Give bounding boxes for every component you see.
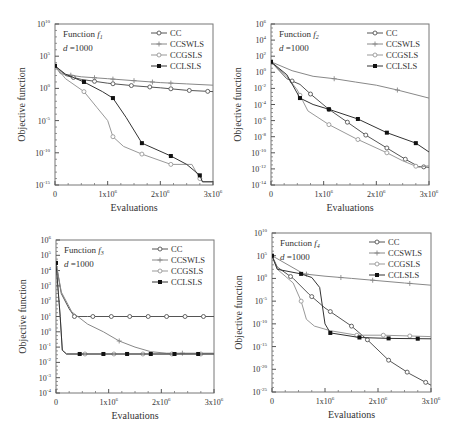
x-tick-label: 0 bbox=[54, 398, 58, 407]
y-tick-label: 10-14 bbox=[251, 180, 266, 190]
chart-panel-f4: 10-2510-2010-1510-1010-5100105101001x106… bbox=[233, 228, 441, 420]
legend-label: CCGSLS bbox=[388, 259, 420, 269]
x-tick-label: 0 bbox=[270, 397, 274, 406]
legend-item-ccswls: CCSWLS bbox=[152, 255, 205, 265]
x-tick-label: 3x106 bbox=[205, 397, 224, 407]
x-tick-label: 2x106 bbox=[367, 189, 386, 199]
legend-item-cclsls: CCLSLS bbox=[152, 277, 202, 287]
x-tick-label: 2x106 bbox=[151, 189, 170, 199]
legend-label: CC bbox=[171, 244, 183, 254]
y-tick-label: 10-4 bbox=[39, 388, 52, 398]
x-tick-label: 0 bbox=[269, 190, 273, 199]
x-axis: 01x1062x1063x106 bbox=[54, 389, 224, 407]
x-tick-label: 1x106 bbox=[316, 396, 335, 406]
y-tick-label: 10-10 bbox=[252, 319, 267, 329]
y-tick-label: 106 bbox=[41, 235, 52, 245]
legend: CCCCSWLSCCGSLSCCLSLS bbox=[369, 237, 422, 280]
panel-title: Function f3 bbox=[64, 245, 104, 256]
y-tick-label: 1010 bbox=[37, 19, 51, 29]
y-tick-label: 105 bbox=[40, 51, 51, 61]
figure-canvas: 10-1510-1010-5100105101001x1062x1063x106… bbox=[0, 0, 458, 436]
dimension-label: d =1000 bbox=[279, 43, 309, 53]
x-tick-label: 2x106 bbox=[369, 396, 388, 406]
legend-label: CCLSLS bbox=[386, 61, 417, 71]
legend-item-ccswls: CCSWLS bbox=[367, 39, 420, 49]
y-tick-label: 1010 bbox=[254, 228, 268, 238]
y-tick-label: 10-8 bbox=[254, 132, 267, 142]
legend-label: CCSWLS bbox=[386, 39, 420, 49]
x-axis-label: Evaluations bbox=[111, 410, 158, 421]
legend-item-ccswls: CCSWLS bbox=[151, 39, 204, 49]
legend-label: CC bbox=[386, 28, 398, 38]
legend-label: CCSWLS bbox=[170, 39, 204, 49]
y-tick-label: 10-20 bbox=[252, 364, 267, 374]
y-tick-label: 103 bbox=[41, 281, 52, 291]
legend-item-ccgsls: CCGSLS bbox=[151, 50, 202, 60]
y-tick-label: 104 bbox=[256, 35, 267, 45]
figure-svg: 10-1510-1010-5100105101001x1062x1063x106… bbox=[0, 0, 458, 436]
plot-area bbox=[269, 60, 429, 169]
x-tick-label: 1x106 bbox=[98, 189, 117, 199]
legend-label: CC bbox=[388, 237, 400, 247]
dimension-label: d =1000 bbox=[63, 43, 93, 53]
legend-item-cc: CC bbox=[369, 237, 400, 247]
legend-label: CCLSLS bbox=[388, 270, 419, 280]
x-tick-label: 2x106 bbox=[152, 397, 171, 407]
y-tick-label: 102 bbox=[41, 296, 52, 306]
y-tick-label: 106 bbox=[256, 19, 267, 29]
y-axis-label: Objective function bbox=[16, 67, 27, 142]
x-axis: 01x1062x1063x106 bbox=[270, 388, 441, 406]
y-tick-label: 105 bbox=[257, 251, 268, 261]
x-axis-label: Evaluations bbox=[326, 202, 373, 213]
panel-title: Function f2 bbox=[279, 29, 319, 40]
x-tick-label: 3x106 bbox=[204, 189, 223, 199]
legend-item-cc: CC bbox=[152, 244, 183, 254]
legend-item-cclsls: CCLSLS bbox=[367, 61, 417, 71]
y-axis-label: Objective function bbox=[232, 67, 243, 142]
y-tick-label: 105 bbox=[41, 250, 52, 260]
legend-label: CCLSLS bbox=[171, 277, 202, 287]
legend-label: CC bbox=[170, 28, 182, 38]
legend-item-ccswls: CCSWLS bbox=[369, 248, 422, 258]
x-axis: 01x1062x1063x106 bbox=[269, 181, 439, 199]
x-tick-label: 3x106 bbox=[420, 189, 439, 199]
y-tick-label: 10-2 bbox=[254, 83, 267, 93]
x-tick-label: 1x106 bbox=[314, 189, 333, 199]
x-axis: 01x1062x1063x106 bbox=[53, 181, 223, 199]
legend: CCCCSWLSCCGSLSCCLSLS bbox=[367, 28, 420, 71]
x-axis-label: Evaluations bbox=[328, 409, 375, 420]
chart-panel-f2: 10-1410-1210-1010-810-610-410-2100102104… bbox=[232, 19, 439, 213]
legend-item-ccgsls: CCGSLS bbox=[367, 50, 418, 60]
legend: CCCCSWLSCCGSLSCCLSLS bbox=[151, 28, 204, 71]
y-tick-label: 104 bbox=[41, 266, 52, 276]
y-tick-label: 10-25 bbox=[252, 387, 267, 397]
legend-label: CCSWLS bbox=[388, 248, 422, 258]
y-tick-label: 10-10 bbox=[251, 148, 266, 158]
dimension-label: d =1000 bbox=[280, 252, 310, 262]
legend-item-cclsls: CCLSLS bbox=[151, 61, 201, 71]
series-cc bbox=[271, 62, 429, 169]
chart-panel-f3: 10-410-310-210-110010110210310410510601x… bbox=[17, 235, 224, 421]
legend-item-ccgsls: CCGSLS bbox=[369, 259, 420, 269]
y-axis: 10-410-310-210-1100101102103104105106 bbox=[39, 235, 60, 398]
y-tick-label: 10-6 bbox=[254, 116, 267, 126]
y-tick-label: 10-2 bbox=[39, 357, 52, 367]
legend-label: CCGSLS bbox=[386, 50, 418, 60]
x-tick-label: 0 bbox=[53, 190, 57, 199]
y-tick-label: 10-1 bbox=[39, 342, 52, 352]
legend-item-ccgsls: CCGSLS bbox=[152, 266, 203, 276]
panel-title: Function f1 bbox=[63, 29, 103, 40]
series-ccgsls bbox=[271, 62, 429, 168]
y-tick-label: 10-15 bbox=[252, 342, 267, 352]
y-tick-label: 10-5 bbox=[255, 296, 268, 306]
y-tick-label: 10-3 bbox=[39, 373, 52, 383]
legend-label: CCGSLS bbox=[170, 50, 202, 60]
y-tick-label: 100 bbox=[256, 67, 267, 77]
y-tick-label: 101 bbox=[41, 312, 52, 322]
panel-title: Function f4 bbox=[280, 238, 320, 249]
chart-panel-f1: 10-1510-1010-5100105101001x1062x1063x106… bbox=[16, 19, 223, 213]
legend-label: CCLSLS bbox=[170, 61, 201, 71]
y-tick-label: 100 bbox=[41, 327, 52, 337]
y-tick-label: 102 bbox=[256, 51, 267, 61]
x-tick-label: 1x106 bbox=[99, 397, 118, 407]
